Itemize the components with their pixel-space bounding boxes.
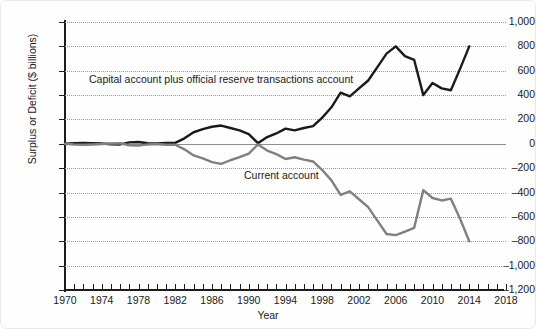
series-label-capital-account: Capital account plus official reserve tr…: [89, 73, 353, 85]
x-axis-tick-label: 1998: [302, 294, 342, 306]
x-axis-tick-label: 2002: [339, 294, 379, 306]
series-line-current-account: [65, 143, 469, 241]
y-axis-tick: [59, 290, 66, 291]
x-axis-tick-label: 1982: [155, 294, 195, 306]
x-axis-tick-label: 2014: [449, 294, 489, 306]
x-axis-tick-label: 2018: [486, 294, 526, 306]
x-axis-tick-label: 1986: [192, 294, 232, 306]
x-axis-tick-label: 1970: [45, 294, 85, 306]
data-lines: [65, 22, 506, 290]
x-axis-tick-label: 1990: [229, 294, 269, 306]
x-axis-tick-label: 1974: [82, 294, 122, 306]
chart-figure: Surplus or Deficit ($ billions) 1,000800…: [0, 0, 536, 329]
plot-area: [65, 22, 506, 290]
series-line-capital-account: [65, 46, 469, 144]
x-axis-title: Year: [1, 309, 535, 321]
series-label-current-account: Current account: [244, 169, 319, 181]
x-axis-tick-label: 1994: [266, 294, 306, 306]
x-axis-tick-label: 2006: [376, 294, 416, 306]
x-axis-tick-label: 1978: [119, 294, 159, 306]
x-axis-tick: [506, 284, 507, 290]
x-axis-tick-label: 2010: [413, 294, 453, 306]
y-axis-title: Surplus or Deficit ($ billions): [26, 14, 38, 184]
